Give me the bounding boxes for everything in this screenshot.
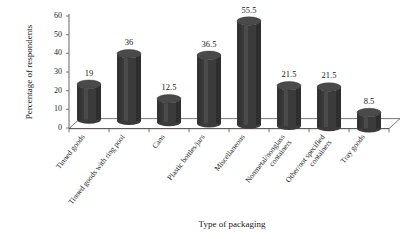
bar-shading-right	[136, 54, 141, 121]
bar-top-cap	[357, 108, 381, 116]
bar-highlight	[204, 55, 208, 123]
y-tick-label-20: 20	[54, 86, 62, 95]
bar-chart: Percentage of respondents 0 10 20 30 40 …	[0, 0, 412, 239]
bar-shading-left	[277, 86, 282, 126]
y-axis-ticks: 0 10 20 30 40 50 60	[54, 11, 69, 132]
bar-0	[77, 80, 101, 124]
category-label-line: Miscellaneous	[212, 133, 246, 173]
bar-highlight	[284, 86, 288, 126]
bar-shading-right	[216, 55, 221, 123]
bar-shading-right	[256, 21, 261, 125]
category-label-line: Tray goods	[338, 133, 366, 165]
category-labels-group: Tinned goodsTinned goods with ring poolC…	[54, 133, 367, 207]
y-tick-label-10: 10	[54, 104, 62, 113]
bar-top-cap	[197, 51, 221, 59]
bar-top-cap	[237, 17, 261, 25]
bar-shading-right	[296, 86, 301, 126]
bar-value-label-1: 36	[125, 37, 134, 47]
bar-5	[277, 82, 301, 131]
bar-shading-left	[157, 99, 162, 122]
bar-shading-left	[117, 54, 122, 121]
category-label-0: Tinned goods	[54, 133, 87, 171]
category-label-line: Cans	[150, 133, 166, 151]
category-label-6: Other/not specifiedcontainers	[284, 133, 334, 190]
category-label-line: Plastic bottles/jars	[165, 133, 206, 182]
bar-shading-left	[197, 55, 202, 123]
bar-highlight	[84, 84, 88, 119]
bar-value-label-0: 19	[85, 68, 94, 78]
bar-shading-left	[317, 87, 322, 127]
bar-shading-right	[96, 84, 101, 119]
x-axis-ticks	[69, 129, 389, 133]
y-tick-label-50: 50	[54, 30, 62, 39]
bar-4	[237, 17, 261, 129]
category-label-2: Cans	[150, 133, 166, 151]
category-label-7: Tray goods	[338, 133, 366, 165]
bar-value-label-6: 21.5	[322, 70, 337, 80]
y-tick-label-40: 40	[54, 48, 62, 57]
bar-highlight	[124, 54, 128, 121]
bar-shading-left	[77, 84, 82, 119]
bar-7	[357, 108, 381, 132]
category-label-3: Plastic bottles/jars	[165, 133, 206, 182]
bar-shading-right	[176, 99, 181, 122]
bar-value-label-7: 8.5	[364, 96, 375, 106]
bar-highlight	[324, 87, 328, 127]
bar-shading-right	[336, 87, 341, 127]
bar-top-cap	[317, 83, 341, 91]
bar-shading-left	[237, 21, 242, 125]
bar-value-label-3: 36.5	[202, 39, 217, 49]
y-tick-label-60: 60	[54, 11, 62, 20]
bar-1	[117, 49, 141, 125]
bar-highlight	[244, 21, 248, 125]
bar-top-cap	[277, 82, 301, 90]
x-axis-title: Type of packaging	[199, 219, 266, 229]
bar-3	[197, 51, 221, 128]
y-tick-label-0: 0	[58, 123, 62, 132]
bar-6	[317, 83, 341, 132]
y-tick-label-30: 30	[54, 67, 62, 76]
bar-top-cap	[77, 80, 101, 88]
category-label-4: Miscellaneous	[212, 133, 246, 173]
bar-top-cap	[157, 95, 181, 103]
bar-value-label-4: 55.5	[242, 5, 257, 15]
bar-value-label-5: 21.5	[282, 69, 297, 79]
category-label-line: Tinned goods	[54, 133, 87, 171]
y-axis-title: Percentage of respondents	[24, 24, 34, 119]
bar-2	[157, 95, 181, 127]
bar-value-label-2: 12.5	[162, 82, 177, 92]
bar-top-cap	[117, 49, 141, 57]
chart-container: Percentage of respondents 0 10 20 30 40 …	[0, 0, 412, 239]
